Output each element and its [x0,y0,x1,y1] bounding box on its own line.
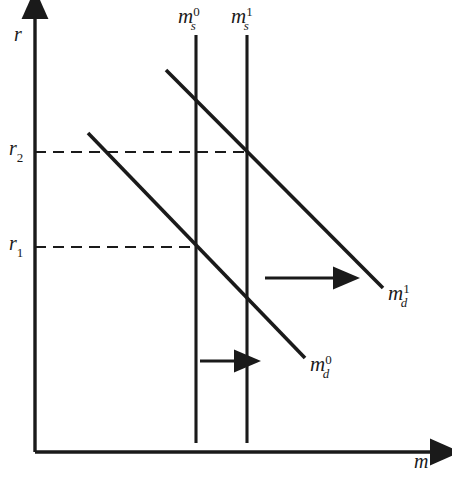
curve-money-demand-new [166,70,383,288]
curve-label-money-demand-initial: m0d [310,354,338,378]
y-tick-r1-base: r [9,232,17,254]
ms1-label-superscript: 1 [246,4,253,19]
md1-label-subscript: d [401,295,408,310]
md0-label-superscript: 0 [325,352,332,367]
curve-label-money-demand-new: m1d [388,283,416,307]
ms0-label-subscript: s [191,18,196,33]
ms0-label-superscript: 0 [193,4,200,19]
y-tick-r1-subscript: 1 [17,245,24,260]
y-tick-r2-base: r [9,137,17,159]
y-tick-label-r1: r1 [9,233,23,256]
curve-label-money-supply-new: m1s [231,6,258,30]
y-tick-r2-subscript: 2 [17,150,24,165]
md0-label-subscript: d [323,366,330,381]
y-tick-label-r2: r2 [9,138,23,161]
curve-label-money-supply-initial: m0s [178,6,205,30]
money-market-figure: r m r2 r1 m0s m1s m0d m1d [0,0,452,477]
x-axis-label: m [414,450,428,473]
figure-canvas [0,0,452,477]
ms1-label-subscript: s [244,18,249,33]
y-axis-label: r [14,23,22,46]
md1-label-superscript: 1 [403,281,410,296]
